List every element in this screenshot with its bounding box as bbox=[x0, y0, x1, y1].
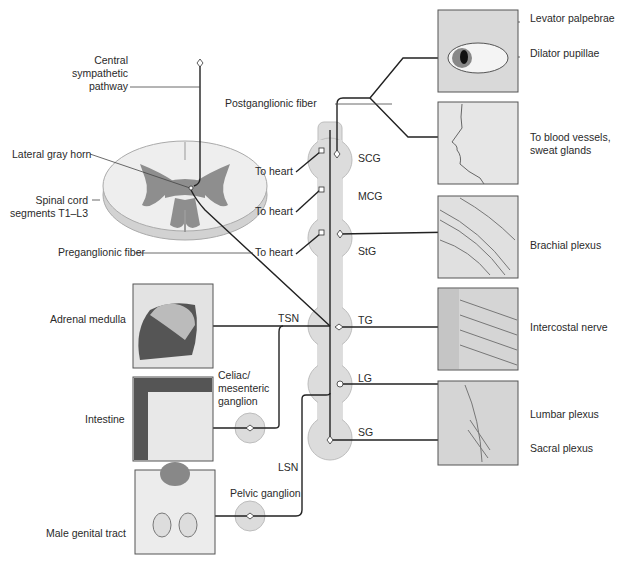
label-brachial-plexus: Brachial plexus bbox=[530, 239, 601, 251]
ganglion-label-stg: StG bbox=[358, 245, 376, 257]
panel-genital bbox=[135, 462, 215, 554]
labels: Central sympathetic pathway Lateral gray… bbox=[10, 12, 615, 539]
sympathetic-diagram: Central sympathetic pathway Lateral gray… bbox=[0, 0, 619, 565]
label-levator-palpebrae: Levator palpebrae bbox=[530, 12, 615, 24]
ganglion-label-scg: SCG bbox=[358, 152, 381, 164]
label-lateral-gray-horn: Lateral gray horn bbox=[12, 148, 92, 160]
panel-brachial bbox=[438, 196, 518, 278]
label-to-heart-1: To heart bbox=[255, 165, 293, 177]
panel-lumbosacral bbox=[438, 381, 518, 465]
label-sacral-plexus: Sacral plexus bbox=[530, 442, 593, 454]
label-celiac-ganglion: Celiac/ bbox=[218, 369, 250, 381]
panel-intercostal bbox=[438, 288, 518, 370]
svg-text:sympathetic: sympathetic bbox=[72, 67, 128, 79]
label-adrenal-medulla: Adrenal medulla bbox=[50, 313, 126, 325]
svg-text:segments T1–L3: segments T1–L3 bbox=[10, 207, 88, 219]
ganglion-label-lg: LG bbox=[358, 372, 372, 384]
panel-adrenal bbox=[133, 284, 213, 368]
label-dilator-pupillae: Dilator pupillae bbox=[530, 47, 600, 59]
label-to-heart-2: To heart bbox=[255, 205, 293, 217]
panel-face bbox=[438, 102, 518, 184]
label-intercostal-nerve: Intercostal nerve bbox=[530, 321, 608, 333]
label-blood-vessels: To blood vessels, bbox=[530, 131, 611, 143]
label-pelvic-ganglion: Pelvic ganglion bbox=[230, 487, 301, 499]
figure-caption-cropped bbox=[0, 556, 619, 565]
svg-text:sweat glands: sweat glands bbox=[530, 144, 591, 156]
label-tsn: TSN bbox=[278, 312, 299, 324]
label-lsn: LSN bbox=[278, 461, 298, 473]
label-postganglionic-fiber: Postganglionic fiber bbox=[225, 97, 317, 109]
ganglion-label-mcg: MCG bbox=[358, 190, 383, 202]
label-central-pathway: Central bbox=[94, 54, 128, 66]
label-intestine: Intestine bbox=[85, 413, 125, 425]
panel-intestine bbox=[133, 377, 213, 461]
spinal-cord-section bbox=[103, 141, 267, 240]
svg-text:mesenteric: mesenteric bbox=[218, 382, 269, 394]
svg-text:pathway: pathway bbox=[89, 80, 129, 92]
ganglion-label-sg: SG bbox=[358, 426, 373, 438]
label-spinal-cord: Spinal cord bbox=[35, 194, 88, 206]
label-preganglionic-fiber: Preganglionic fiber bbox=[58, 246, 145, 258]
label-lumbar-plexus: Lumbar plexus bbox=[530, 408, 599, 420]
label-male-genital-tract: Male genital tract bbox=[46, 527, 126, 539]
label-to-heart-3: To heart bbox=[255, 246, 293, 258]
panel-eye bbox=[438, 10, 518, 92]
svg-text:ganglion: ganglion bbox=[218, 395, 258, 407]
ganglion-label-tg: TG bbox=[358, 314, 373, 326]
